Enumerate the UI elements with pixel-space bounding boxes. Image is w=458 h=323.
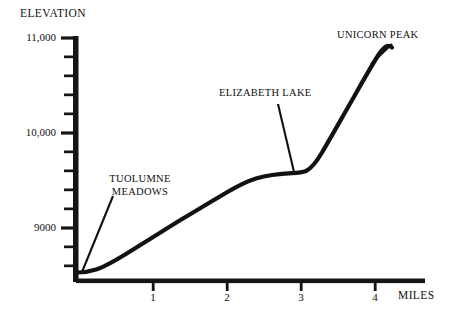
tuolumne-leader-line xyxy=(82,196,113,272)
y-tick-label-10000: 10,000 xyxy=(0,126,56,138)
annotation-elizabeth-lake: ELIZABETH LAKE xyxy=(219,86,312,99)
x-ticks xyxy=(152,283,377,291)
y-tick-label-11000: 11,000 xyxy=(0,31,56,43)
y-axis-line xyxy=(73,36,79,282)
elevation-profile-chart: ELEVATION MILES 11,000 10,000 9000 1 2 3… xyxy=(0,0,458,323)
y-axis-title: ELEVATION xyxy=(20,7,86,19)
annotation-unicorn-peak: UNICORN PEAK xyxy=(337,28,418,41)
y-tick-label-9000: 9000 xyxy=(0,221,56,233)
x-axis-line xyxy=(76,279,425,284)
x-tick-label-2: 2 xyxy=(217,291,237,303)
chart-plot-area xyxy=(0,0,458,323)
y-major-ticks xyxy=(61,36,74,229)
x-tick-label-3: 3 xyxy=(291,291,311,303)
annotation-tuolumne-meadows: TUOLUMNE MEADOWS xyxy=(94,172,186,198)
x-axis-title: MILES xyxy=(398,289,435,301)
y-minor-ticks xyxy=(64,56,74,268)
unicorn-leader-line xyxy=(371,44,392,64)
x-tick-label-4: 4 xyxy=(365,291,385,303)
elevation-curve xyxy=(78,46,392,273)
annotation-tuolumne-line-1: TUOLUMNE xyxy=(94,172,186,185)
elizabeth-leader-line xyxy=(278,104,294,172)
annotation-tuolumne-line-2: MEADOWS xyxy=(94,185,186,198)
x-tick-label-1: 1 xyxy=(143,291,163,303)
